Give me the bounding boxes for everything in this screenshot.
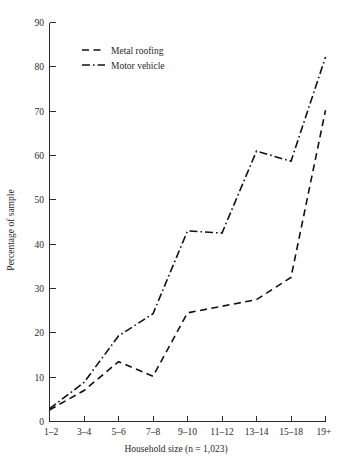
y-tick-label: 0 — [39, 417, 44, 427]
y-tick-label: 90 — [35, 18, 45, 28]
x-tick-label: 13–14 — [245, 427, 269, 437]
y-tick-label: 30 — [35, 284, 45, 294]
y-tick-label: 80 — [35, 62, 45, 72]
x-tick-label: 9–10 — [178, 427, 197, 437]
x-axis-title: Household size (n = 1,023) — [124, 444, 227, 455]
x-tick-label: 7–8 — [146, 427, 161, 437]
y-tick-label: 20 — [35, 328, 45, 338]
x-tick-label: 1–2 — [44, 427, 59, 437]
x-tick-label: 5–6 — [111, 427, 126, 437]
y-tick-label: 40 — [35, 240, 45, 250]
x-tick-label: 19+ — [317, 427, 332, 437]
legend-label: Metal roofing — [111, 46, 164, 56]
x-axis-tick-labels: 1–2 3–4 5–6 7–8 9–10 11–12 13–14 15–18 1… — [44, 427, 332, 437]
x-tick-label: 3–4 — [77, 427, 92, 437]
y-tick-label: 50 — [35, 195, 45, 205]
x-tick-label: 15–18 — [279, 427, 303, 437]
x-tick-label: 11–12 — [210, 427, 234, 437]
y-tick-label: 60 — [35, 151, 45, 161]
y-axis-title: Percentage of sample — [6, 189, 16, 270]
y-tick-label: 70 — [35, 107, 45, 117]
chart-figure: Percentage of sample 0 10 20 30 40 50 60… — [0, 0, 342, 467]
chart-background — [0, 0, 342, 467]
legend-label: Motor vehicle — [111, 61, 165, 71]
y-tick-label: 10 — [35, 373, 45, 383]
